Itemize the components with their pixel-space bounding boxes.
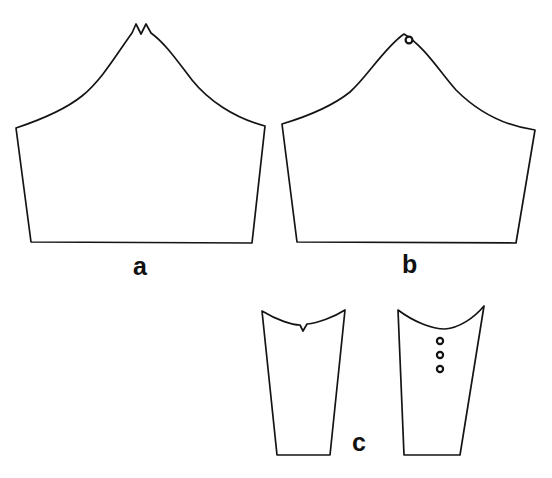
pattern-piece-c-left-outline bbox=[262, 310, 345, 455]
drill-hole-icon-c-bottom bbox=[437, 366, 443, 372]
pattern-figure-canvas bbox=[0, 0, 552, 478]
drill-hole-icon-b bbox=[406, 37, 413, 44]
figure-label-b: b bbox=[402, 252, 417, 277]
figure-label-c: c bbox=[352, 430, 366, 455]
drill-hole-icon-c-top bbox=[437, 338, 443, 344]
figure-label-a: a bbox=[133, 254, 147, 279]
drill-hole-icon-c-middle bbox=[437, 352, 443, 358]
